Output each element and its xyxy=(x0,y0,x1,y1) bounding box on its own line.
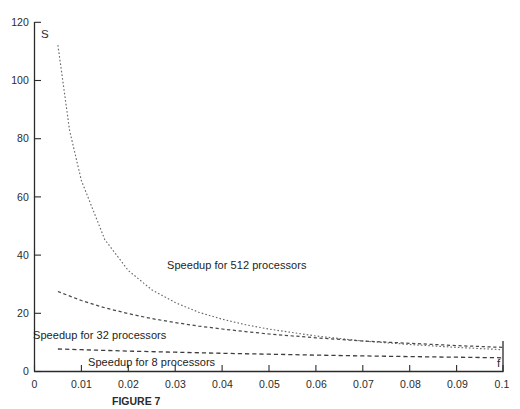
x-tick-label-007: 0.07 xyxy=(346,378,381,390)
x-tick-label-01: 0.1 xyxy=(488,378,516,390)
y-tick-label-40: 40 xyxy=(2,249,29,261)
curve-512-processors xyxy=(58,45,503,350)
curve-label-512: Speedup for 512 processors xyxy=(167,259,307,271)
x-tick-label-006: 0.06 xyxy=(299,378,334,390)
curve-label-8: Speedup for 8 processors xyxy=(88,356,215,368)
y-tick-label-60: 60 xyxy=(2,191,29,203)
x-tick-label-008: 0.08 xyxy=(393,378,428,390)
x-tick-label-003: 0.03 xyxy=(158,378,193,390)
y-tick-label-0: 0 xyxy=(2,365,29,377)
figure-speedup-chart: 120 100 80 60 40 20 0 0 0.01 0.02 0.03 0… xyxy=(0,0,520,409)
x-tick-label-0: 0 xyxy=(22,378,47,390)
y-axis-name-S: S xyxy=(41,28,49,40)
figure-caption-text: FIGURE 7 xyxy=(112,395,160,407)
x-tick-label-004: 0.04 xyxy=(205,378,240,390)
axis-lines xyxy=(34,22,504,372)
figure-caption: FIGURE 7 xyxy=(0,395,520,409)
y-axis-ticks xyxy=(35,22,42,371)
x-tick-label-009: 0.09 xyxy=(440,378,475,390)
y-tick-label-120: 120 xyxy=(2,16,29,28)
y-tick-label-100: 100 xyxy=(2,74,29,86)
x-tick-label-001: 0.01 xyxy=(64,378,99,390)
y-tick-label-20: 20 xyxy=(2,307,29,319)
x-tick-label-005: 0.05 xyxy=(252,378,287,390)
x-axis-name-f: f xyxy=(497,357,500,369)
x-tick-label-002: 0.02 xyxy=(111,378,146,390)
y-tick-label-80: 80 xyxy=(2,132,29,144)
curve-label-32: Speedup for 32 processors xyxy=(33,329,166,341)
plot-area xyxy=(0,0,520,409)
